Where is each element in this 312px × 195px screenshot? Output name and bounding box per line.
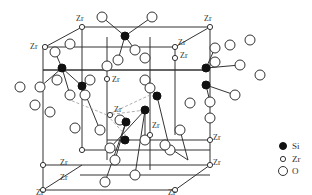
si-atom: [141, 106, 149, 114]
o-atom: [97, 12, 107, 22]
si-atom: [153, 92, 161, 100]
zr-label: Zr: [112, 75, 120, 84]
frame-line: [45, 27, 82, 47]
o-atom: [185, 98, 195, 108]
o-atom: [210, 57, 220, 67]
legend-zr-marker: [280, 156, 285, 161]
o-atom: [85, 75, 95, 85]
atoms: [15, 12, 265, 193]
zr-atom: [207, 162, 212, 167]
o-atom: [235, 60, 245, 70]
zr-atom: [172, 55, 177, 60]
zr-atom: [79, 24, 84, 29]
zr-atom: [207, 137, 212, 142]
si-atom: [202, 81, 210, 89]
o-atom: [80, 90, 90, 100]
o-atom: [50, 47, 60, 57]
o-atom: [205, 113, 215, 123]
o-atom: [35, 82, 45, 92]
o-atom: [225, 40, 235, 50]
o-atom: [65, 39, 75, 49]
o-atom: [230, 90, 240, 100]
zr-label: Zr: [213, 158, 221, 167]
zr-label: Zr: [204, 14, 212, 23]
o-atom: [102, 61, 112, 71]
zr-label: Zr: [114, 105, 122, 114]
si-atom: [121, 136, 129, 144]
crystal-structure-diagram: ZrZrZrZrZrZrZrZrZrZrZrZrZrZr Si Zr O: [0, 0, 312, 195]
si-atom: [202, 64, 210, 72]
o-atom: [245, 35, 255, 45]
o-atom: [30, 100, 40, 110]
o-atom: [15, 82, 25, 92]
zr-label: Zr: [213, 133, 221, 142]
legend-si-label: Si: [292, 141, 300, 151]
o-atom: [95, 125, 105, 135]
zr-label: Zr: [60, 158, 68, 167]
zr-atom: [42, 44, 47, 49]
si-atom: [121, 32, 129, 40]
legend-o-marker: [279, 167, 288, 176]
zr-atom: [79, 147, 84, 152]
zr-label: Zr: [180, 51, 188, 60]
zr-atom: [147, 132, 152, 137]
frame-line: [175, 165, 210, 190]
o-atom: [147, 12, 157, 22]
zr-atom: [207, 24, 212, 29]
zr-label: Zr: [178, 38, 186, 47]
o-atom: [52, 75, 62, 85]
zr-atom: [172, 44, 177, 49]
o-atom: [45, 107, 55, 117]
o-atom: [100, 177, 110, 187]
o-atom: [175, 125, 185, 135]
o-atom: [140, 53, 150, 63]
si-atom: [58, 64, 66, 72]
zr-label: Zr: [168, 188, 176, 195]
zr-atom: [40, 162, 45, 167]
zr-label: Zr: [36, 188, 44, 195]
zr-label: Zr: [76, 14, 84, 23]
legend-o-label: O: [292, 166, 299, 176]
si-atom: [78, 82, 86, 90]
o-atom: [70, 123, 80, 133]
legend: Si Zr O: [279, 141, 301, 176]
zr-atom: [104, 76, 109, 81]
si-atom: [122, 118, 130, 126]
zr-label: Zr: [60, 173, 68, 182]
o-atom: [205, 97, 215, 107]
legend-zr-label: Zr: [292, 154, 301, 164]
o-atom: [160, 140, 170, 150]
o-atom: [113, 55, 123, 65]
o-atom: [255, 70, 265, 80]
zr-atom: [107, 112, 112, 117]
o-atom: [210, 43, 220, 53]
o-atom: [130, 170, 140, 180]
o-atom: [65, 90, 75, 100]
legend-si-marker: [280, 143, 287, 150]
o-atom: [145, 83, 155, 93]
o-atom: [110, 155, 120, 165]
o-atom: [105, 143, 115, 153]
o-atom: [130, 45, 140, 55]
zr-label: Zr: [152, 121, 160, 130]
zr-label: Zr: [30, 42, 38, 51]
